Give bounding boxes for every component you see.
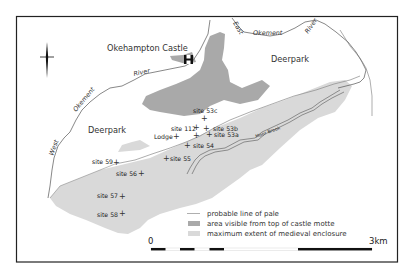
site-label-56: site 56 xyxy=(116,170,137,177)
legend-swatch-enclosure xyxy=(188,231,200,236)
site-label-lodge: Lodge xyxy=(154,133,173,141)
scale-end-label: 3km xyxy=(369,236,388,246)
legend-label-visible: area visible from top of castle motte xyxy=(207,220,335,228)
castle-label: Okehampton Castle xyxy=(107,43,188,53)
cross-icon: + xyxy=(163,154,170,163)
cross-icon: + xyxy=(119,209,126,218)
site-label-54: site 54 xyxy=(193,142,214,149)
site-label-59: site 59 xyxy=(92,158,113,165)
legend-swatch-visible xyxy=(188,221,200,226)
site-label-53c: site 53c xyxy=(193,107,218,114)
cross-icon: + xyxy=(201,114,208,123)
legend-label-pale: probable line of pale xyxy=(207,210,279,218)
cross-icon: + xyxy=(138,169,145,178)
deerpark-west-label: Deerpark xyxy=(88,125,126,135)
cross-icon: + xyxy=(184,141,191,150)
deerpark-east-label: Deerpark xyxy=(271,54,309,64)
site-label-58: site 58 xyxy=(97,211,118,218)
site-label-53a: site 53a xyxy=(214,131,239,138)
map-figure: Okehampton Castle Deerpark Deerpark Okem… xyxy=(0,0,414,277)
scale-start-label: 0 xyxy=(148,236,153,246)
cross-icon: + xyxy=(173,132,180,141)
site-label-57: site 57 xyxy=(97,192,118,199)
legend-label-enclosure: maximum extent of medieval enclosure xyxy=(207,230,347,238)
cross-icon: + xyxy=(206,130,213,139)
cross-icon: + xyxy=(119,192,126,201)
cross-icon: + xyxy=(193,131,200,140)
castle-icon xyxy=(184,55,193,64)
river-label-east-okement: Okement xyxy=(253,29,283,37)
cross-icon: + xyxy=(113,158,120,167)
site-label-55: site 55 xyxy=(170,155,191,162)
